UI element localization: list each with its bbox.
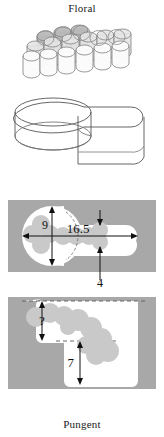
receptor-site-top-view: 9 16.5 4 — [8, 200, 156, 288]
dimension-label-4: 4 — [97, 276, 103, 288]
dimension-label-16-5: 16.5 — [67, 221, 90, 236]
dimension-label-question: ? — [39, 313, 45, 328]
receptor-site-cross-section: ? 7 — [8, 297, 156, 397]
three-dimensional-receptor-site-wireframe — [8, 94, 158, 172]
figure-title-top: Floral — [0, 2, 164, 14]
olfactory-receptor-site-figure: Floral — [0, 0, 164, 437]
figure-title-bottom: Pungent — [0, 418, 164, 430]
dimension-label-9: 9 — [42, 218, 48, 232]
dimension-label-7: 7 — [68, 355, 75, 370]
space-filling-molecular-model — [18, 20, 146, 82]
